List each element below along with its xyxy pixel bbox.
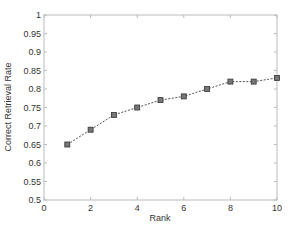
plot-area [44,15,277,200]
x-tick-label: 8 [228,203,233,213]
y-tick-label: 0.7 [28,121,41,131]
line-chart: 0.50.550.60.650.70.750.80.850.90.951 024… [0,0,297,230]
data-point-marker [205,87,210,92]
x-tick-label: 2 [88,203,93,213]
y-axis-label: Correct Retrieval Rate [3,62,13,151]
x-tick-label: 6 [181,203,186,213]
data-point-marker [65,142,70,147]
y-tick-label: 0.6 [28,158,41,168]
y-tick-label: 0.8 [28,84,41,94]
data-point-marker [181,94,186,99]
y-tick-label: 0.85 [23,66,41,76]
y-tick-label: 0.95 [23,29,41,39]
y-tick-label: 1 [36,10,41,20]
data-point-marker [228,79,233,84]
y-tick-label: 0.65 [23,140,41,150]
y-tick-label: 0.55 [23,177,41,187]
data-point-marker [135,105,140,110]
x-tick-label: 4 [135,203,140,213]
data-point-marker [251,79,256,84]
y-tick-label: 0.5 [28,195,41,205]
data-point-marker [111,112,116,117]
x-axis-label: Rank [149,213,171,223]
y-tick-label: 0.75 [23,103,41,113]
x-tick-label: 10 [272,203,282,213]
x-tick-label: 0 [41,203,46,213]
data-point-marker [275,75,280,80]
y-tick-label: 0.9 [28,47,41,57]
data-point-marker [158,98,163,103]
data-point-marker [88,127,93,132]
